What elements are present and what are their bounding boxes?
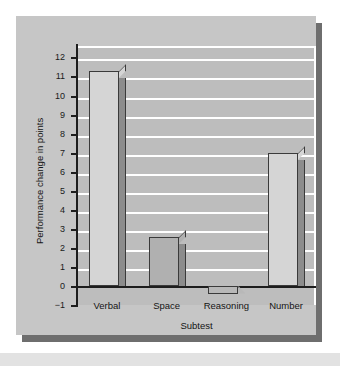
category-label: Reasoning — [197, 300, 257, 311]
y-tick-label: 1 — [41, 263, 65, 272]
y-tick-mark — [71, 96, 77, 98]
y-tick-mark — [71, 191, 77, 193]
y-tick-mark — [71, 57, 77, 59]
bar-verbal — [89, 71, 119, 286]
bar-front-face — [208, 286, 238, 294]
y-tick-mark — [71, 248, 77, 250]
category-label: Number — [256, 300, 316, 311]
y-tick-mark — [71, 134, 77, 136]
bar-reasoning — [208, 286, 238, 294]
y-tick-label: 10 — [41, 92, 65, 101]
y-tick-label: −1 — [41, 301, 65, 310]
gridline — [77, 59, 314, 61]
y-tick-label: 0 — [41, 282, 65, 291]
bar-side-face — [179, 244, 186, 286]
x-axis-line — [76, 286, 316, 288]
bar-front-face — [149, 237, 179, 286]
bar-side-face — [298, 160, 305, 286]
bar-number — [268, 153, 298, 286]
bar-front-face — [89, 71, 119, 286]
y-tick-mark — [71, 210, 77, 212]
category-label: Verbal — [77, 300, 137, 311]
y-tick-label: 12 — [41, 53, 65, 62]
bar-front-face — [268, 153, 298, 286]
y-tick-label: 2 — [41, 244, 65, 253]
y-tick-mark — [71, 172, 77, 174]
bar-space — [149, 237, 179, 286]
category-label: Space — [137, 300, 197, 311]
chart-panel: −10123456789101112 VerbalSpaceReasoningN… — [16, 16, 316, 335]
y-axis-title: Performance change in points — [34, 117, 45, 243]
bottom-decorative-band — [0, 353, 340, 366]
y-tick-mark — [71, 286, 77, 288]
figure-root: −10123456789101112 VerbalSpaceReasoningN… — [0, 0, 340, 369]
y-tick-mark — [71, 267, 77, 269]
y-tick-mark — [71, 229, 77, 231]
y-tick-mark — [71, 76, 77, 78]
y-tick-mark — [71, 153, 77, 155]
x-axis-title: Subtest — [77, 320, 316, 331]
bar-side-face — [119, 78, 126, 286]
y-tick-label: 11 — [41, 72, 65, 81]
y-tick-mark — [71, 115, 77, 117]
